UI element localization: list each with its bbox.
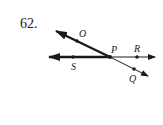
point-R xyxy=(135,55,139,59)
point-Q xyxy=(132,67,136,71)
label-Q: Q xyxy=(129,73,137,84)
point-S xyxy=(71,55,75,59)
angle-diagram: O P R S Q xyxy=(0,0,163,125)
label-R: R xyxy=(133,43,140,54)
label-O: O xyxy=(79,28,86,39)
label-P: P xyxy=(110,44,117,55)
point-P xyxy=(108,55,112,59)
point-O xyxy=(75,39,79,43)
label-S: S xyxy=(71,61,76,72)
